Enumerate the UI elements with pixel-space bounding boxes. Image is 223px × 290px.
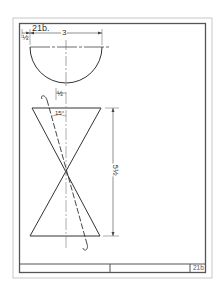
outer-sheet-border [13, 18, 212, 278]
label-height-5-half: 5½ [111, 163, 119, 176]
label-view-21b: 21b. [32, 24, 50, 33]
label-left-half: ½ [22, 34, 29, 42]
cut-line-curl-bottom [83, 244, 87, 250]
label-angle-15: 15° [55, 110, 64, 116]
title-block-sheet-number: 21b [193, 265, 204, 272]
dim-height-arrow-top [112, 108, 115, 112]
inner-drawing-border [20, 24, 206, 273]
technical-drawing [0, 0, 223, 290]
dim-height-arrow-bottom [112, 232, 115, 236]
cut-line [47, 100, 87, 244]
label-diameter-3: 3 [61, 29, 67, 37]
label-top-half: ½ [57, 90, 63, 97]
cut-line-curl-top [42, 96, 47, 100]
dim-arrow-right [98, 32, 102, 35]
